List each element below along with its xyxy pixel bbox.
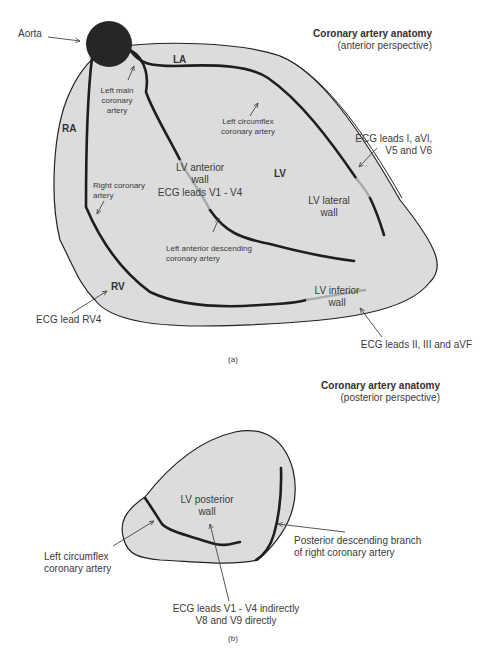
pda-label-2: of right coronary artery: [294, 547, 395, 558]
ecg-rv4-label: ECG lead RV4: [36, 314, 102, 325]
lv-posterior-label-1: LV posterior: [180, 494, 234, 505]
panel-b-caption: (b): [228, 634, 238, 643]
aorta-label: Aorta: [18, 28, 42, 39]
lv-label: LV: [274, 168, 286, 179]
ecg-posterior-label-1: ECG leads V1 - V4 indirectly: [173, 603, 300, 614]
ecg-lateral-label-2: V5 and V6: [385, 145, 432, 156]
posterior-circumflex-label-2: coronary artery: [44, 563, 111, 574]
lv-anterior-label-1: LV anterior: [176, 162, 225, 173]
coronary-anatomy-figure: Coronary artery anatomy (anterior perspe…: [0, 0, 495, 655]
lv-anterior-label-2: wall: [190, 174, 208, 185]
lv-lateral-label-2: wall: [319, 207, 337, 218]
panel-b-subtitle: (posterior perspective): [341, 392, 440, 403]
lv-posterior-label-2: wall: [197, 506, 215, 517]
panel-a-subtitle: (anterior perspective): [338, 40, 432, 51]
lv-inferior-label-2: wall: [327, 297, 345, 308]
ecg-lateral-label-1: ECG leads I, aVl,: [355, 133, 432, 144]
lad-label-1: Left anterior descending: [166, 244, 252, 253]
right-coronary-label-1: Right coronary: [93, 181, 145, 190]
rv-label: RV: [111, 281, 125, 292]
ecg-v1-v4-label: ECG leads V1 - V4: [158, 187, 243, 198]
lv-lateral-label-1: LV lateral: [308, 195, 350, 206]
panel-a-anterior: Coronary artery anatomy (anterior perspe…: [18, 21, 472, 364]
panel-a-title: Coronary artery anatomy: [313, 28, 432, 39]
left-circumflex-label-2: coronary artery: [221, 127, 275, 136]
pda-arrow: [278, 524, 345, 532]
panel-b-posterior: Coronary artery anatomy (posterior persp…: [44, 380, 440, 643]
aorta-circle: [86, 21, 132, 67]
left-main-label-3: artery: [107, 106, 127, 115]
panel-a-caption: (a): [228, 355, 238, 364]
lv-inferior-label-1: LV inferior: [315, 285, 361, 296]
pda-label-1: Posterior descending branch: [294, 535, 421, 546]
left-main-label-1: Left main: [101, 86, 134, 95]
figure-canvas: Coronary artery anatomy (anterior perspe…: [0, 0, 495, 655]
left-circumflex-label-1: Left circumflex: [222, 117, 274, 126]
panel-b-title: Coronary artery anatomy: [321, 380, 440, 391]
right-coronary-label-2: artery: [93, 191, 113, 200]
ecg-posterior-label-2: V8 and V9 directly: [195, 615, 276, 626]
aorta-arrow: [48, 37, 80, 41]
lad-label-2: coronary artery: [166, 254, 220, 263]
la-label: LA: [173, 54, 186, 65]
ra-label: RA: [62, 123, 76, 134]
left-main-label-2: coronary: [101, 96, 132, 105]
posterior-circumflex-label-1: Left circumflex: [44, 551, 108, 562]
ecg-inferior-label: ECG leads II, III and aVF: [361, 339, 472, 350]
